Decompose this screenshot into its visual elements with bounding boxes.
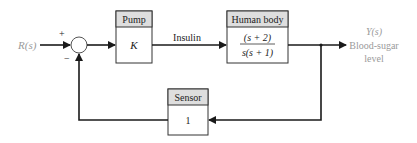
human-body-title: Human body [232, 14, 284, 25]
minus-sign: − [64, 53, 70, 64]
plus-sign: + [59, 28, 65, 39]
tf-numerator: (s + 2) [244, 32, 272, 44]
feedback-to-junction [79, 54, 168, 120]
sensor-block: Sensor 1 [168, 89, 208, 135]
pump-block: Pump K [116, 11, 152, 63]
input-label: R(s) [17, 39, 37, 52]
pump-title: Pump [122, 14, 145, 25]
output-desc-line2: level [364, 53, 384, 64]
insulin-label: Insulin [173, 32, 201, 43]
sensor-title: Sensor [174, 92, 202, 103]
sensor-gain: 1 [186, 115, 191, 126]
output-label: Y(s) [366, 26, 383, 38]
output-desc-line1: Blood-sugar [349, 40, 399, 51]
human-body-block: Human body (s + 2) s(s + 1) [227, 11, 288, 63]
pump-gain: K [129, 39, 138, 51]
block-diagram: R(s) + − Pump K Insulin Human body (s + … [0, 0, 417, 143]
tf-denominator: s(s + 1) [242, 47, 274, 59]
summing-junction [71, 37, 87, 53]
